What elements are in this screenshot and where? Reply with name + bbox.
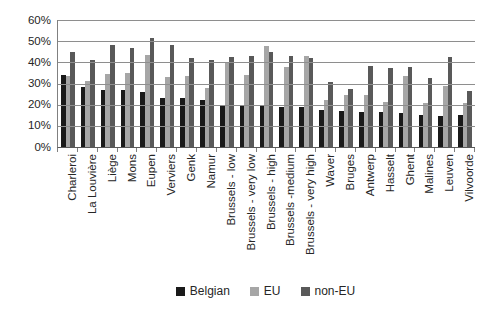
y-tick-label: 30% xyxy=(28,77,51,90)
y-tick-label: 50% xyxy=(28,35,51,48)
category-slot: Namur xyxy=(196,152,216,266)
bar-non-eu xyxy=(408,67,413,147)
category-slot: Mons xyxy=(117,152,137,266)
bar-non-eu xyxy=(189,58,194,147)
category-slot: Genk xyxy=(176,152,196,266)
bar-non-eu xyxy=(467,91,472,147)
category-slot: Waver xyxy=(315,152,335,266)
gridline xyxy=(58,84,475,85)
bar-non-eu xyxy=(428,78,433,147)
bar-non-eu xyxy=(249,56,254,147)
gridline xyxy=(58,105,475,106)
y-tick-label: 40% xyxy=(28,56,51,69)
category-slot: Vilvoorde xyxy=(454,152,474,266)
gridline xyxy=(58,41,475,42)
y-tick-label: 10% xyxy=(28,119,51,132)
category-slot: Liège xyxy=(97,152,117,266)
category-slot: Ghent xyxy=(395,152,415,266)
plot-wrap: CharleroiLa LouvièreLiègeMonsEupenVervie… xyxy=(57,20,474,266)
bar-non-eu xyxy=(328,82,333,147)
category-slot: Brussels - very high xyxy=(295,152,315,266)
category-slot: Antwerp xyxy=(355,152,375,266)
legend-label: Belgian xyxy=(190,284,230,298)
bar-non-eu xyxy=(269,52,274,147)
category-slot: Bruges xyxy=(335,152,355,266)
bar-chart: 0%10%20%30%40%50%60% CharleroiLa Louvièr… xyxy=(0,0,498,313)
y-tick-label: 0% xyxy=(34,141,51,154)
legend-label: EU xyxy=(264,284,281,298)
bar-non-eu xyxy=(289,56,294,147)
bar-non-eu xyxy=(309,58,314,147)
y-tick-label: 20% xyxy=(28,98,51,111)
bar-non-eu xyxy=(368,66,373,147)
bar-non-eu xyxy=(448,57,453,147)
category-slot: Malines xyxy=(414,152,434,266)
legend-swatch-icon xyxy=(250,287,259,296)
y-axis: 0%10%20%30%40%50%60% xyxy=(0,20,57,147)
bar-non-eu xyxy=(170,45,175,147)
bar-non-eu xyxy=(229,57,234,147)
bar-non-eu xyxy=(348,89,353,147)
category-slot: Brussels - high xyxy=(256,152,276,266)
gridline xyxy=(58,126,475,127)
legend-swatch-icon xyxy=(301,287,310,296)
category-labels: CharleroiLa LouvièreLiègeMonsEupenVervie… xyxy=(57,152,474,266)
chart-area: 0%10%20%30%40%50%60% CharleroiLa Louvièr… xyxy=(0,0,498,266)
category-slot: Hasselt xyxy=(375,152,395,266)
category-slot: Charleroi xyxy=(57,152,77,266)
bar-non-eu xyxy=(110,45,115,147)
plot-area xyxy=(57,20,475,148)
category-slot: Brussels - very low xyxy=(236,152,256,266)
category-slot: Brussels -medium xyxy=(275,152,295,266)
category-slot: Eupen xyxy=(136,152,156,266)
bar-non-eu xyxy=(150,38,155,147)
bar-non-eu xyxy=(209,60,214,147)
category-slot: Leuven xyxy=(434,152,454,266)
category-slot: Brussels - low xyxy=(216,152,236,266)
y-tick-label: 60% xyxy=(28,14,51,27)
category-label: Vilvoorde xyxy=(463,154,476,202)
category-slot: La Louvière xyxy=(77,152,97,266)
bar-non-eu xyxy=(70,52,75,147)
legend-label: non-EU xyxy=(315,284,356,298)
gridline xyxy=(58,62,475,63)
legend-item-eu: EU xyxy=(250,284,281,298)
gridline xyxy=(58,20,475,21)
legend-swatch-icon xyxy=(176,287,185,296)
legend-item-non-eu: non-EU xyxy=(301,284,356,298)
legend: BelgianEUnon-EU xyxy=(57,284,474,298)
bar-non-eu xyxy=(90,60,95,147)
legend-item-belgian: Belgian xyxy=(176,284,230,298)
bar-non-eu xyxy=(388,68,393,147)
category-slot: Verviers xyxy=(156,152,176,266)
